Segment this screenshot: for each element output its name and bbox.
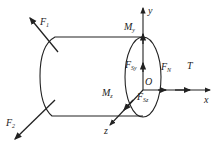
- label-z: z: [104, 126, 108, 136]
- label-t: T: [187, 61, 193, 71]
- label-mz: Mz: [102, 88, 113, 99]
- force-f2-arrow: [15, 100, 55, 139]
- label-o: O: [145, 77, 152, 87]
- label-y: y: [148, 6, 152, 16]
- label-fn: FN: [161, 62, 171, 73]
- label-fsz: FSz: [137, 92, 148, 103]
- label-f2: F2: [6, 118, 15, 129]
- label-x: x: [204, 95, 208, 105]
- label-f1: F1: [40, 17, 49, 28]
- label-my: My: [124, 22, 135, 33]
- fn-point: [160, 89, 163, 92]
- label-fsy: FSy: [125, 60, 137, 71]
- shaft-diagram: [0, 0, 218, 149]
